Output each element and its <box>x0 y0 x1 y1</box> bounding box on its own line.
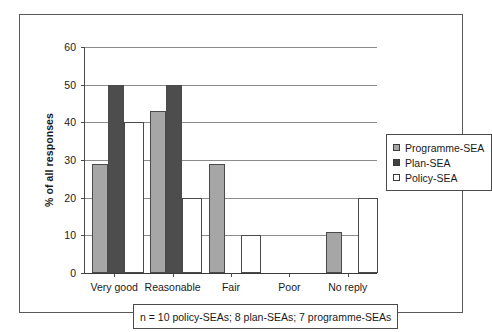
bar-group <box>202 47 260 273</box>
legend-swatch-policy-sea <box>393 174 400 181</box>
caption-text: n = 10 policy-SEAs; 8 plan-SEAs; 7 progr… <box>140 311 391 323</box>
bar-policy-sea <box>241 235 261 273</box>
bar-programme-sea <box>326 232 342 273</box>
x-tick-mark <box>173 273 174 277</box>
bar-group <box>319 47 377 273</box>
legend-label-programme-sea: Programme-SEA <box>405 142 484 154</box>
plot-area: Very goodReasonableFairPoorNo reply <box>84 47 376 273</box>
y-tick-label: 20 <box>20 192 76 203</box>
x-tick-label: No reply <box>328 281 367 293</box>
bar-policy-sea <box>358 198 378 273</box>
x-tick-label: Fair <box>222 281 240 293</box>
bar-plan-sea <box>108 85 124 273</box>
legend-item: Policy-SEA <box>393 170 484 185</box>
y-tick-label: 60 <box>20 42 76 53</box>
y-tick-label: 10 <box>20 230 76 241</box>
bar-programme-sea <box>150 111 166 273</box>
bar-group <box>143 47 201 273</box>
bar-policy-sea <box>182 198 202 273</box>
bar-programme-sea <box>92 164 108 273</box>
bar-group <box>260 47 318 273</box>
y-tick-label: 50 <box>20 79 76 90</box>
legend-label-plan-sea: Plan-SEA <box>405 157 451 169</box>
legend-item: Programme-SEA <box>393 140 484 155</box>
x-tick-label: Very good <box>91 281 138 293</box>
x-tick-mark <box>231 273 232 277</box>
y-tick-label: 30 <box>20 155 76 166</box>
figure-frame: % of all responses Very goodReasonableFa… <box>19 14 463 313</box>
caption-box: n = 10 policy-SEAs; 8 plan-SEAs; 7 progr… <box>133 304 398 329</box>
y-tick-label: 0 <box>20 268 76 279</box>
x-tick-mark <box>289 273 290 277</box>
x-tick-mark <box>114 273 115 277</box>
legend-label-policy-sea: Policy-SEA <box>405 172 458 184</box>
legend-item: Plan-SEA <box>393 155 484 170</box>
x-tick-label: Reasonable <box>145 281 201 293</box>
bar-group <box>85 47 143 273</box>
x-tick-label: Poor <box>278 281 300 293</box>
bar-policy-sea <box>124 122 144 273</box>
y-tick-mark <box>81 273 85 274</box>
chart-legend: Programme-SEA Plan-SEA Policy-SEA <box>386 134 492 191</box>
bar-plan-sea <box>166 85 182 273</box>
legend-swatch-programme-sea <box>393 144 400 151</box>
bar-programme-sea <box>209 164 225 273</box>
legend-swatch-plan-sea <box>393 159 400 166</box>
x-tick-mark <box>348 273 349 277</box>
y-tick-label: 40 <box>20 117 76 128</box>
